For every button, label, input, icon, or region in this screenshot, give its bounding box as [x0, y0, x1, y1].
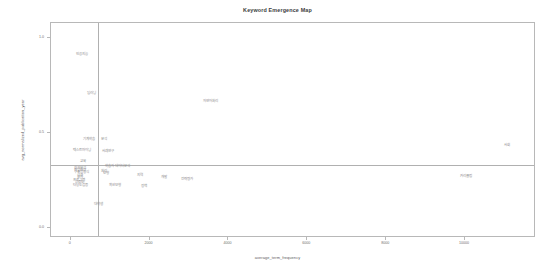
keyword-point-label: 기계학습 — [83, 138, 95, 142]
keyword-point-label: 데이터분석 — [115, 165, 130, 169]
x-axis-tick-label: 4000 — [223, 241, 231, 245]
keyword-point-label: 타당도검증 — [73, 184, 88, 188]
x-axis-tick-label: 6000 — [302, 241, 310, 245]
keyword-point-label: 평가 — [187, 178, 193, 182]
y-axis-label: avg_normalized_publication_year — [20, 99, 25, 160]
keyword-point-label: 사회 — [504, 144, 510, 148]
page-title: Keyword Emergence Map — [0, 7, 555, 13]
x-axis-tick — [464, 237, 465, 240]
y-axis-tick-label: 0.5 — [39, 130, 44, 134]
y-axis-tick — [47, 227, 50, 228]
keyword-point-label: 사례연구 — [102, 151, 114, 155]
keyword-point-label: 모형 — [103, 172, 109, 176]
x-axis-tick — [70, 237, 71, 240]
x-axis-tick — [385, 237, 386, 240]
plot-area — [50, 22, 535, 237]
y-axis-tick — [47, 132, 50, 133]
x-axis-tick — [149, 237, 150, 240]
chart-screenshot: Keyword Emergence Map avg_normalized_pub… — [0, 0, 555, 274]
x-axis-tick-label: 0 — [69, 241, 71, 245]
keyword-point-label: 교육 — [80, 160, 86, 164]
y-axis-tick-label: 1.0 — [39, 35, 44, 39]
x-axis-tick-label: 2000 — [145, 241, 153, 245]
y-axis-tick-label: 0.0 — [39, 225, 44, 229]
keyword-point-label: 커리큘럼 — [460, 175, 472, 179]
x-axis-tick — [227, 237, 228, 240]
keyword-point-label: 학습자 — [105, 165, 114, 169]
keyword-point-label: 자연어처리 — [203, 100, 218, 104]
keyword-point-label: 정책 — [141, 185, 147, 189]
y-axis-tick — [47, 37, 50, 38]
keyword-point-label: 지역 — [137, 175, 143, 179]
x-axis-tick — [306, 237, 307, 240]
keyword-point-label: 대학생 — [94, 203, 103, 207]
keyword-point-label: 개발 — [161, 177, 167, 181]
x-axis-label: average_term_frequency — [0, 255, 555, 260]
keyword-point-label: 분석 — [101, 138, 107, 142]
keyword-point-label: 텍스트마이닝 — [73, 150, 91, 154]
keyword-point-label: 인공지능 — [76, 54, 88, 58]
x-axis-tick-label: 8000 — [381, 241, 389, 245]
keyword-point-label: 딥러닝 — [87, 93, 96, 97]
keyword-point-label: 확산모형 — [109, 184, 121, 188]
x-axis-tick-label: 10000 — [459, 241, 469, 245]
